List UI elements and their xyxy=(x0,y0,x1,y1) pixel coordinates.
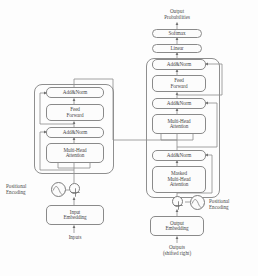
linear-label: Linear xyxy=(171,46,184,51)
encoder-positional-encoding-line2: Encoding xyxy=(6,189,26,195)
output-embedding[interactable]: Output Embedding xyxy=(150,216,204,236)
input-embedding[interactable]: Input Embedding xyxy=(46,205,104,225)
encoder-multi-head-attention[interactable]: Multi-Head Attention xyxy=(46,143,104,163)
softmax-label: Softmax xyxy=(169,31,186,36)
encoder-positional-encoding-label: Positional Encoding xyxy=(6,183,50,195)
decoder-add-norm-2-label: Add&Norm xyxy=(167,101,191,106)
encoder-add-norm-2[interactable]: Add&Norm xyxy=(46,87,104,98)
decoder-positional-encoding-label: Positional Encoding xyxy=(209,198,257,210)
decoder-masked-multi-head-attention[interactable]: Masked Multi-Head Attention xyxy=(152,166,206,193)
transformer-architecture-diagram: Add&Norm Feed Forward Add&Norm Multi-Hea… xyxy=(0,0,258,276)
inputs-label: Inputs xyxy=(54,234,96,240)
encoder-add-norm-2-label: Add&Norm xyxy=(63,90,87,95)
decoder-add-norm-1-label: Add&Norm xyxy=(167,153,191,158)
outputs-line2: (shifted right) xyxy=(163,250,191,256)
decoder-positional-encoding-sine-icon xyxy=(190,195,205,210)
encoder-add-norm-1-label: Add&Norm xyxy=(63,130,87,135)
decoder-add-norm-2[interactable]: Add&Norm xyxy=(152,98,206,109)
encoder-feed-forward[interactable]: Feed Forward xyxy=(46,104,104,121)
encoder-multi-head-attention-line2: Attention xyxy=(66,153,85,158)
decoder-multi-head-attention-line2: Attention xyxy=(170,124,189,129)
encoder-feed-forward-line2: Forward xyxy=(67,113,84,118)
encoder-add-norm-1[interactable]: Add&Norm xyxy=(46,127,104,138)
encoder-positional-encoding-sine-icon xyxy=(51,182,66,197)
softmax-block[interactable]: Softmax xyxy=(152,29,202,38)
decoder-add-norm-1[interactable]: Add&Norm xyxy=(152,150,206,161)
decoder-add-norm-3[interactable]: Add&Norm xyxy=(152,59,206,70)
decoder-positional-encoding-line2: Encoding xyxy=(209,204,229,210)
decoder-residual-sum-node xyxy=(172,196,183,207)
encoder-residual-sum-node xyxy=(69,183,80,194)
linear-block[interactable]: Linear xyxy=(152,44,202,53)
decoder-masked-mha-line3: Attention xyxy=(170,182,189,187)
output-probabilities-line2: Probabilities xyxy=(164,14,190,20)
decoder-feed-forward[interactable]: Feed Forward xyxy=(152,75,206,92)
output-probabilities-label: Output Probabilities xyxy=(147,8,207,20)
decoder-add-norm-3-label: Add&Norm xyxy=(167,62,191,67)
decoder-feed-forward-line2: Forward xyxy=(171,84,188,89)
outputs-label: Outputs (shifted right) xyxy=(147,244,207,256)
output-embedding-line2: Embedding xyxy=(165,226,188,231)
decoder-multi-head-attention[interactable]: Multi-Head Attention xyxy=(152,114,206,134)
input-embedding-line2: Embedding xyxy=(63,215,86,220)
